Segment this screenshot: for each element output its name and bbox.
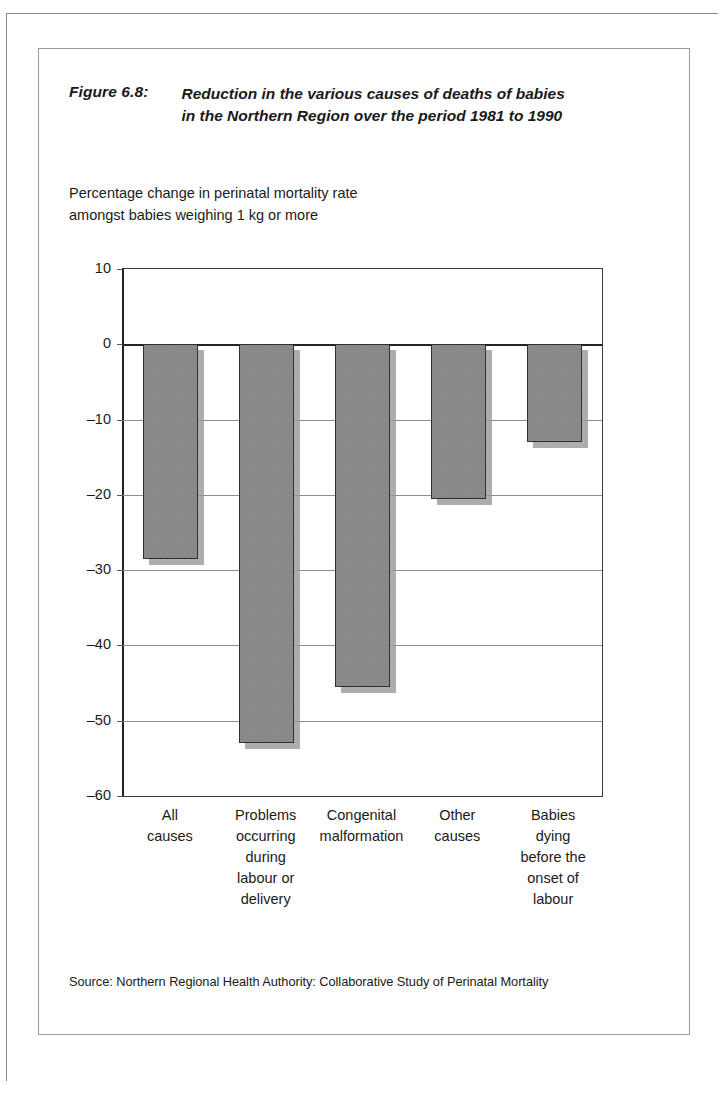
y-tick-label--20: –20 — [87, 486, 111, 502]
plot-area — [122, 268, 603, 797]
x-axis-label: Babiesdyingbefore theonset oflabour — [497, 805, 609, 910]
bar — [335, 344, 390, 687]
bar — [431, 344, 486, 498]
y-axis-tick-labels: 100–10–20–30–40–50–60 — [59, 268, 111, 797]
x-axis-label-line: delivery — [210, 889, 322, 910]
bar-chart: 100–10–20–30–40–50–60 AllcausesProblemso… — [39, 49, 691, 1036]
bar — [527, 344, 582, 442]
bar — [239, 344, 294, 743]
x-axis-label-line: labour or — [210, 868, 322, 889]
y-tick--60 — [117, 796, 123, 797]
x-axis-category-labels: AllcausesProblemsoccurringduringlabour o… — [122, 805, 603, 965]
figure-frame: Figure 6.8: Reduction in the various cau… — [38, 48, 690, 1035]
source-note: Source: Northern Regional Health Authori… — [69, 974, 548, 989]
y-tick-label--50: –50 — [87, 712, 111, 728]
x-axis-label-line: Babies — [497, 805, 609, 826]
figure-page: Figure 6.8: Reduction in the various cau… — [0, 0, 724, 1094]
y-tick-label-10: 10 — [95, 260, 111, 276]
x-axis-label-line: labour — [497, 889, 609, 910]
y-tick-label--10: –10 — [87, 411, 111, 427]
bar — [143, 344, 198, 559]
y-tick-label--30: –30 — [87, 561, 111, 577]
y-tick-label-0: 0 — [103, 335, 111, 351]
y-tick-label--60: –60 — [87, 787, 111, 803]
x-axis-label-line: before the — [497, 847, 609, 868]
y-tick-label--40: –40 — [87, 636, 111, 652]
bars-group — [123, 269, 602, 796]
x-axis-label-line: onset of — [497, 868, 609, 889]
x-axis-label-line: dying — [497, 826, 609, 847]
x-axis-label-line: during — [210, 847, 322, 868]
